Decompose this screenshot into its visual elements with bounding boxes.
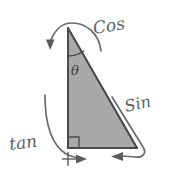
- theta-angle-label: θ: [71, 63, 79, 78]
- cos-label: Cos: [91, 13, 126, 38]
- base-start-tick-icon: [62, 152, 76, 166]
- triangle-group: [68, 28, 137, 148]
- trig-diagram-canvas: θ Cos Sin tan: [0, 0, 178, 177]
- tan-arrowhead-icon: [76, 155, 87, 164]
- sin-label: Sin: [123, 91, 153, 115]
- cos-arrowhead-icon: [46, 40, 55, 51]
- tan-label: tan: [8, 131, 38, 154]
- sin-arrowhead-icon: [111, 152, 123, 161]
- trig-diagram-figure: θ Cos Sin tan: [0, 0, 178, 177]
- cos-annotation-group: Cos: [46, 13, 126, 51]
